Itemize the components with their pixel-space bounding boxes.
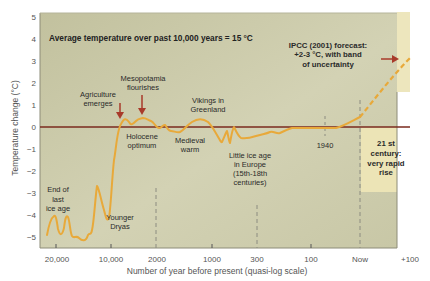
- svg-text:IPCC (2001) forecast:: IPCC (2001) forecast:: [289, 41, 367, 50]
- svg-text:emerges: emerges: [83, 99, 112, 108]
- svg-text:optimum: optimum: [128, 141, 157, 150]
- svg-text:last: last: [52, 195, 65, 204]
- svg-text:0: 0: [32, 123, 37, 132]
- svg-text:Dryas: Dryas: [110, 222, 130, 231]
- svg-text:−5: −5: [27, 233, 37, 242]
- svg-text:21 st: 21 st: [377, 139, 395, 148]
- svg-text:ice age: ice age: [46, 204, 70, 213]
- vikings-annotation: Vikings in Greenland: [190, 96, 225, 114]
- svg-text:4: 4: [32, 35, 37, 44]
- svg-text:3: 3: [32, 57, 37, 66]
- svg-text:Agriculture: Agriculture: [80, 90, 116, 99]
- year-1940-label: 1940: [317, 141, 334, 150]
- temperature-chart: 5 4 3 2 1 0 −1 −2 −3 −4 −5 Temperature c…: [0, 0, 430, 281]
- svg-text:Vikings in: Vikings in: [192, 96, 224, 105]
- svg-text:+100: +100: [401, 255, 420, 264]
- svg-text:100: 100: [304, 255, 318, 264]
- svg-text:flourishes: flourishes: [127, 83, 159, 92]
- uncertainty-band: [397, 12, 410, 92]
- svg-text:300: 300: [250, 255, 264, 264]
- little-ice-age-annotation: Little ice age in Europe (15th-18th cent…: [229, 151, 271, 187]
- svg-text:of uncertainty: of uncertainty: [302, 60, 354, 69]
- svg-text:centuries): centuries): [234, 178, 267, 187]
- svg-text:very rapid: very rapid: [367, 159, 405, 168]
- svg-text:−4: −4: [27, 211, 37, 220]
- svg-text:Little ice age: Little ice age: [229, 151, 271, 160]
- chart-heading: Average temperature over past 10,000 yea…: [49, 33, 253, 43]
- svg-text:+2-3 °C, with band: +2-3 °C, with band: [294, 50, 362, 59]
- svg-text:1000: 1000: [203, 255, 221, 264]
- svg-text:century:: century:: [371, 149, 402, 158]
- x-axis-ticks: 20,000 10,000 2000 1000 300 100 Now +100: [45, 255, 420, 264]
- svg-text:−2: −2: [27, 167, 37, 176]
- svg-text:2000: 2000: [148, 255, 166, 264]
- svg-text:Holocene: Holocene: [126, 132, 158, 141]
- svg-text:in Europe: in Europe: [234, 160, 266, 169]
- svg-text:−3: −3: [27, 189, 37, 198]
- svg-text:rise: rise: [379, 168, 394, 177]
- svg-text:Medieval: Medieval: [175, 136, 205, 145]
- svg-text:1: 1: [32, 101, 37, 110]
- svg-text:20,000: 20,000: [45, 255, 70, 264]
- svg-text:Now: Now: [352, 255, 368, 264]
- svg-text:(15th-18th: (15th-18th: [233, 169, 267, 178]
- y-axis-ticks: 5 4 3 2 1 0 −1 −2 −3 −4 −5: [27, 13, 37, 242]
- svg-text:10,000: 10,000: [99, 255, 124, 264]
- svg-text:−1: −1: [27, 145, 37, 154]
- x-axis-label: Number of year before present (quasi-log…: [127, 266, 308, 276]
- agriculture-annotation: Agriculture emerges: [80, 90, 116, 108]
- holocene-annotation: Holocene optimum: [126, 132, 158, 150]
- svg-text:Greenland: Greenland: [190, 105, 225, 114]
- svg-text:2: 2: [32, 79, 37, 88]
- svg-text:5: 5: [32, 13, 37, 22]
- svg-text:Mesopotamia: Mesopotamia: [120, 74, 166, 83]
- svg-text:warm: warm: [180, 145, 199, 154]
- y-axis-label: Temperature change (°C): [10, 80, 20, 176]
- svg-text:End of: End of: [47, 185, 70, 194]
- svg-text:Younger: Younger: [106, 213, 134, 222]
